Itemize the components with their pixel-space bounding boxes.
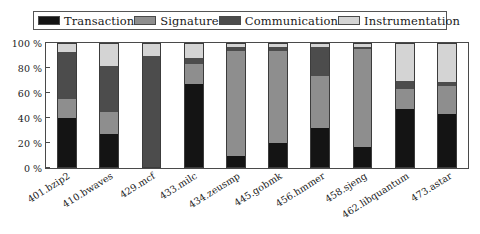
bar-segment[interactable] xyxy=(226,51,246,156)
y-axis-tick-label: 80 % xyxy=(18,63,42,74)
bar-segment[interactable] xyxy=(395,43,415,81)
legend-swatch-instrumentation xyxy=(338,16,360,25)
x-axis-labels: 401.bzip2410.bwaves429.mcf433.milc434.ze… xyxy=(45,170,469,232)
bar-segment[interactable] xyxy=(310,76,330,129)
bar-segment[interactable] xyxy=(57,99,77,118)
bar-segment[interactable] xyxy=(99,112,119,135)
bar-stack[interactable] xyxy=(395,43,415,168)
bar-segment[interactable] xyxy=(57,118,77,168)
bar-stack[interactable] xyxy=(310,43,330,168)
legend-swatch-communication xyxy=(219,16,241,25)
x-axis-tick-label: 473.astar xyxy=(409,170,454,204)
bar-segment[interactable] xyxy=(184,64,204,84)
legend-label-signature: Signature xyxy=(160,15,218,27)
plot-area: 0 %20 %40 %60 %80 %100 % xyxy=(45,42,469,169)
x-axis-tick-label: 429.mcf xyxy=(118,170,157,200)
bar-segment[interactable] xyxy=(395,89,415,109)
legend-swatch-transaction xyxy=(38,16,60,25)
bar-segment[interactable] xyxy=(99,66,119,112)
legend-label-transaction: Transaction xyxy=(64,15,134,27)
y-axis-tick-label: 0 % xyxy=(24,163,42,174)
legend-swatch-signature xyxy=(134,16,156,25)
bar-segment[interactable] xyxy=(226,156,246,169)
bar-segment[interactable] xyxy=(310,128,330,168)
bar-segment[interactable] xyxy=(99,43,119,66)
bar-stack[interactable] xyxy=(437,43,457,168)
bar-segment[interactable] xyxy=(395,109,415,168)
bar-stack[interactable] xyxy=(142,43,162,168)
bar-segment[interactable] xyxy=(142,43,162,56)
bar-stack[interactable] xyxy=(268,43,288,168)
bar-stack[interactable] xyxy=(99,43,119,168)
stacked-bar-chart: Transaction Signature Communication Inst… xyxy=(0,0,480,234)
bar-segment[interactable] xyxy=(268,143,288,168)
bar-segment[interactable] xyxy=(57,43,77,52)
y-axis-tick-label: 60 % xyxy=(18,88,42,99)
chart-legend: Transaction Signature Communication Inst… xyxy=(33,11,447,30)
bar-stack[interactable] xyxy=(226,43,246,168)
bar-segment[interactable] xyxy=(353,147,373,168)
y-axis-tick-label: 40 % xyxy=(18,113,42,124)
bar-segment[interactable] xyxy=(437,86,457,115)
legend-item-signature[interactable]: Signature xyxy=(134,15,218,27)
bar-segment[interactable] xyxy=(353,49,373,147)
bar-segment[interactable] xyxy=(142,56,162,169)
bar-segment[interactable] xyxy=(437,114,457,168)
y-axis-tick-label: 100 % xyxy=(12,38,42,49)
bar-segment[interactable] xyxy=(310,47,330,76)
bar-segment[interactable] xyxy=(395,81,415,90)
legend-label-instrumentation: Instrumentation xyxy=(364,15,460,27)
bar-segment[interactable] xyxy=(184,43,204,58)
bar-segment[interactable] xyxy=(99,134,119,168)
legend-item-instrumentation[interactable]: Instrumentation xyxy=(338,15,460,27)
bar-segment[interactable] xyxy=(268,51,288,144)
bar-segment[interactable] xyxy=(184,84,204,168)
bar-stack[interactable] xyxy=(57,43,77,168)
legend-label-communication: Communication xyxy=(245,15,338,27)
bars-layer xyxy=(46,43,468,168)
legend-item-transaction[interactable]: Transaction xyxy=(38,15,134,27)
bar-stack[interactable] xyxy=(353,43,373,168)
bar-segment[interactable] xyxy=(57,52,77,100)
y-axis-tick-label: 20 % xyxy=(18,138,42,149)
bar-segment[interactable] xyxy=(437,43,457,82)
bar-stack[interactable] xyxy=(184,43,204,168)
legend-item-communication[interactable]: Communication xyxy=(219,15,338,27)
